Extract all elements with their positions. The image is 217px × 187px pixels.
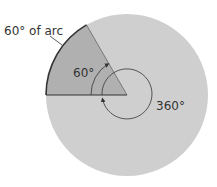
angle-label: 60° (73, 66, 94, 80)
arc-label: 60° of arc (4, 24, 63, 38)
arc-diagram: 60° of arc 60° 360° (0, 0, 217, 187)
full-rotation-label: 360° (156, 99, 185, 113)
